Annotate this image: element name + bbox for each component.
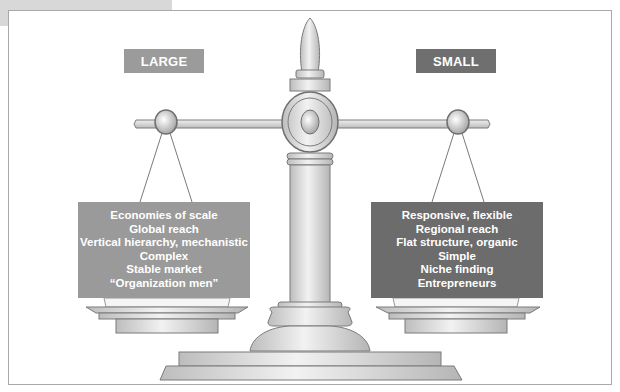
- right-pan: [376, 298, 540, 333]
- trait-item: Complex: [78, 250, 250, 264]
- large-org-traits-box: Economies of scale Global reach Vertical…: [78, 202, 250, 298]
- trait-item: Simple: [371, 250, 543, 264]
- trait-item: Flat structure, organic: [371, 236, 543, 250]
- large-label: LARGE: [124, 49, 204, 73]
- scale-finial: [290, 18, 330, 91]
- scale-column: [287, 153, 333, 305]
- left-pan: [86, 298, 248, 333]
- balance-scale-illustration: [0, 0, 620, 392]
- trait-item: “Organization men”: [78, 277, 250, 291]
- trait-item: Global reach: [78, 223, 250, 237]
- trait-item: Economies of scale: [78, 209, 250, 223]
- trait-item: Niche finding: [371, 263, 543, 277]
- trait-item: Stable market: [78, 263, 250, 277]
- trait-item: Entrepreneurs: [371, 277, 543, 291]
- small-org-traits-box: Responsive, flexible Regional reach Flat…: [371, 202, 543, 298]
- trait-item: Regional reach: [371, 223, 543, 237]
- trait-item: Vertical hierarchy, mechanistic: [78, 236, 250, 250]
- trait-item: Responsive, flexible: [371, 209, 543, 223]
- small-label: SMALL: [416, 49, 496, 73]
- scale-hub: [282, 92, 338, 152]
